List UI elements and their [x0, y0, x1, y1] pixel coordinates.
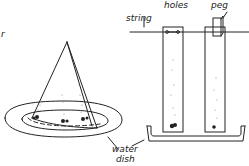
- label-water: water: [112, 145, 138, 154]
- label-cut-left: r: [1, 30, 5, 39]
- paper-strip-1: [163, 27, 183, 132]
- label-peg: peg: [211, 1, 228, 10]
- paper-cone: [32, 42, 97, 128]
- left-water-dish: [5, 101, 122, 137]
- chromatography-diagram: r string holes peg water dish: [0, 0, 249, 166]
- label-string: string: [126, 14, 152, 23]
- paper-strip-2: [205, 27, 225, 132]
- right-water-dish: [147, 126, 245, 136]
- diagram-drawing: [0, 0, 249, 166]
- label-holes: holes: [164, 1, 188, 10]
- label-dish: dish: [116, 155, 135, 164]
